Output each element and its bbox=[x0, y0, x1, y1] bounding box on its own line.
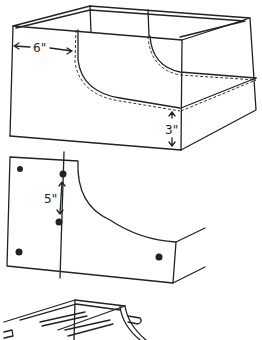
hole-marker bbox=[17, 166, 23, 172]
box-drawing: 6" 3" bbox=[10, 6, 256, 150]
sketch-canvas: 6" 3" 5" bbox=[0, 0, 262, 340]
frame-drawing bbox=[4, 300, 146, 340]
hole-marker bbox=[56, 219, 63, 226]
height-label: 3" bbox=[165, 123, 178, 137]
hole-marker bbox=[16, 249, 23, 256]
spacing-label: 5" bbox=[44, 192, 57, 206]
width-label: 6" bbox=[33, 41, 46, 55]
hole-marker bbox=[156, 254, 163, 261]
hole-marker bbox=[60, 171, 67, 178]
panel-drawing: 5" bbox=[7, 152, 205, 283]
